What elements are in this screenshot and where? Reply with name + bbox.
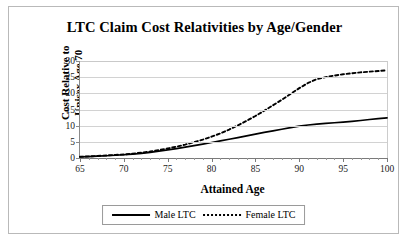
y-tick-label-10: 10	[66, 121, 76, 131]
x-tick-mark-76	[176, 158, 177, 160]
x-tick-mark-73	[150, 158, 151, 160]
x-tick-mark-79	[203, 158, 204, 160]
gridline-y-30	[80, 61, 387, 62]
gridline-y-10	[80, 126, 387, 127]
x-tick-mark-99	[378, 158, 379, 160]
x-tick-mark-67	[98, 158, 99, 160]
legend-item-female[interactable]: Female LTC	[203, 209, 296, 220]
x-tick-mark-78	[194, 158, 195, 160]
y-tick-label-5: 5	[70, 137, 75, 147]
x-tick-mark-75	[168, 158, 169, 162]
x-tick-mark-88	[282, 158, 283, 160]
x-tick-mark-98	[369, 158, 370, 160]
gridline-y-5	[80, 142, 387, 143]
x-tick-mark-90	[299, 158, 300, 162]
y-tick-label-30: 30	[66, 56, 76, 66]
x-tick-mark-83	[238, 158, 239, 160]
y-tick-label-20: 20	[66, 88, 76, 98]
x-tick-label-100: 100	[380, 164, 394, 174]
chart-title: LTC Claim Cost Relativities by Age/Gende…	[9, 19, 400, 36]
y-tick-mark-20	[76, 93, 80, 94]
x-tick-mark-70	[124, 158, 125, 162]
y-tick-mark-5	[76, 142, 80, 143]
y-tick-label-15: 15	[66, 105, 76, 115]
series-line-male-ltc	[80, 118, 387, 157]
gridline-y-25	[80, 77, 387, 78]
y-tick-mark-15	[76, 110, 80, 111]
x-tick-mark-80	[212, 158, 213, 162]
x-tick-mark-84	[247, 158, 248, 160]
gridline-y-20	[80, 93, 387, 94]
x-tick-mark-77	[185, 158, 186, 160]
x-tick-mark-86	[264, 158, 265, 160]
x-tick-mark-71	[133, 158, 134, 160]
x-tick-label-80: 80	[207, 164, 217, 174]
y-tick-mark-30	[76, 61, 80, 62]
x-tick-mark-85	[255, 158, 256, 162]
x-tick-mark-74	[159, 158, 160, 160]
x-tick-label-90: 90	[295, 164, 305, 174]
x-tick-label-65: 65	[75, 164, 85, 174]
x-tick-mark-72	[141, 158, 142, 160]
chart-screenshot: LTC Claim Cost Relativities by Age/Gende…	[0, 0, 409, 243]
x-tick-mark-89	[291, 158, 292, 160]
gridline-y-15	[80, 110, 387, 111]
x-tick-mark-94	[334, 158, 335, 160]
legend-label-female: Female LTC	[246, 209, 296, 220]
plot-area: 05101520253065707580859095100	[79, 61, 388, 159]
x-tick-mark-65	[80, 158, 81, 162]
x-tick-mark-91	[308, 158, 309, 160]
y-tick-mark-25	[76, 77, 80, 78]
x-tick-mark-82	[229, 158, 230, 160]
y-tick-label-25: 25	[66, 72, 76, 82]
chart-frame: LTC Claim Cost Relativities by Age/Gende…	[8, 6, 399, 234]
legend-item-male[interactable]: Male LTC	[112, 209, 196, 220]
x-tick-mark-81	[220, 158, 221, 160]
x-tick-mark-69	[115, 158, 116, 160]
x-tick-mark-92	[317, 158, 318, 160]
x-tick-label-70: 70	[119, 164, 129, 174]
x-tick-mark-93	[326, 158, 327, 160]
legend-dotted-line-icon	[203, 214, 241, 216]
x-axis-title: Attained Age	[79, 183, 386, 195]
x-tick-mark-95	[343, 158, 344, 162]
y-tick-label-0: 0	[70, 153, 75, 163]
legend-solid-line-icon	[112, 214, 150, 216]
x-tick-mark-68	[106, 158, 107, 160]
series-line-female-ltc	[80, 70, 387, 156]
x-tick-mark-100	[387, 158, 388, 162]
y-tick-mark-10	[76, 126, 80, 127]
chart-legend: Male LTC Female LTC	[102, 205, 306, 225]
legend-label-male: Male LTC	[155, 209, 196, 220]
x-tick-label-85: 85	[251, 164, 261, 174]
x-tick-label-95: 95	[338, 164, 348, 174]
x-tick-mark-96	[352, 158, 353, 160]
x-tick-mark-97	[361, 158, 362, 160]
x-tick-mark-87	[273, 158, 274, 160]
x-tick-mark-66	[89, 158, 90, 160]
x-tick-label-75: 75	[163, 164, 173, 174]
